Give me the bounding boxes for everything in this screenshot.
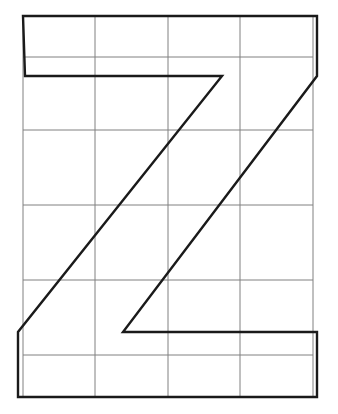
figure-canvas [0, 0, 338, 414]
canvas-background [0, 0, 338, 414]
letter-z-grid-diagram [0, 0, 338, 414]
